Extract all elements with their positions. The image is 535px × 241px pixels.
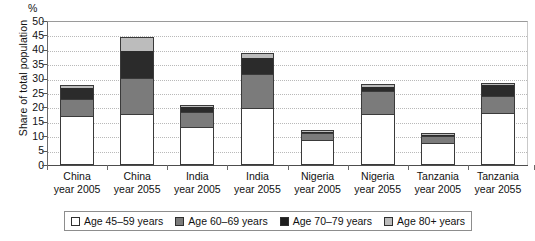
bar-group (408, 21, 468, 165)
bar-series-container (47, 21, 528, 165)
x-axis-label: Indiayear 2005 (167, 170, 227, 195)
x-axis-label: Indiayear 2055 (227, 170, 287, 195)
chart-legend: Age 45–59 yearsAge 60–69 yearsAge 70–79 … (64, 211, 472, 231)
bar-segment (362, 92, 394, 115)
x-axis-label-country: Nigeria (348, 170, 408, 183)
legend-item[interactable]: Age 60–69 years (175, 215, 267, 227)
stacked-bar[interactable] (120, 37, 154, 165)
legend-item[interactable]: Age 45–59 years (71, 215, 163, 227)
x-axis-label-year: year 2005 (408, 183, 468, 196)
legend-label: Age 80+ years (397, 215, 465, 227)
stacked-bar[interactable] (421, 133, 455, 165)
x-axis-tick (167, 165, 227, 170)
x-axis-tick (408, 165, 468, 170)
bar-segment (181, 128, 213, 165)
x-axis-label-year: year 2005 (167, 183, 227, 196)
bar-segment (302, 134, 334, 141)
legend-item[interactable]: Age 70–79 years (280, 215, 372, 227)
bar-segment (482, 85, 514, 96)
x-axis-labels: Chinayear 2005Chinayear 2055Indiayear 20… (47, 170, 528, 195)
x-axis-tick (468, 165, 528, 170)
x-axis-tick (348, 165, 408, 170)
bar-segment (482, 114, 514, 165)
white-swatch (71, 217, 80, 226)
x-axis-label-country: Nigeria (288, 170, 348, 183)
y-axis-tick-label: 45 (18, 30, 44, 40)
x-axis-label: Chinayear 2055 (107, 170, 167, 195)
bar-segment (242, 58, 274, 75)
bar-segment (242, 75, 274, 109)
y-axis-tick-label: 15 (18, 116, 44, 126)
bar-group (227, 21, 287, 165)
x-axis-label: Nigeriayear 2005 (288, 170, 348, 195)
x-axis-tick (288, 165, 348, 170)
bar-segment (302, 141, 334, 165)
y-axis-tick-label: 0 (18, 160, 44, 170)
y-axis-tick-label: 50 (18, 16, 44, 26)
y-axis-tick-label: 30 (18, 73, 44, 83)
legend-label: Age 60–69 years (188, 215, 267, 227)
legend-item[interactable]: Age 80+ years (384, 215, 465, 227)
y-axis-tick-label: 40 (18, 44, 44, 54)
x-axis-label: Tanzaniayear 2005 (408, 170, 468, 195)
x-axis-label-country: China (47, 170, 107, 183)
bar-group (107, 21, 167, 165)
y-axis-tick-label: 10 (18, 131, 44, 141)
y-axis-tick-label: 20 (18, 102, 44, 112)
stacked-bar[interactable] (180, 105, 214, 165)
x-axis-label-country: India (167, 170, 227, 183)
legend-label: Age 70–79 years (293, 215, 372, 227)
x-axis-label-year: year 2055 (468, 183, 528, 196)
bar-segment (362, 115, 394, 165)
bar-segment (61, 88, 93, 99)
x-axis-label-year: year 2055 (227, 183, 287, 196)
chart-figure: % Share of total population 051015202530… (0, 0, 535, 241)
bar-segment (422, 144, 454, 165)
bar-segment (61, 100, 93, 117)
x-axis-label: Tanzaniayear 2055 (468, 170, 528, 195)
bar-group (348, 21, 408, 165)
x-axis-label-country: China (107, 170, 167, 183)
x-axis-ticks (47, 165, 528, 170)
stacked-bar[interactable] (60, 85, 94, 165)
x-axis-label-year: year 2005 (47, 183, 107, 196)
x-axis-tick (107, 165, 167, 170)
x-axis-tick (47, 165, 107, 170)
y-axis-tick-label: 5 (18, 145, 44, 155)
bar-segment (121, 38, 153, 51)
bar-segment (422, 137, 454, 144)
x-axis-label: Chinayear 2005 (47, 170, 107, 195)
bar-segment (121, 115, 153, 165)
legend-label: Age 45–59 years (84, 215, 163, 227)
y-axis-tick-label: 25 (18, 88, 44, 98)
x-axis-label-country: Tanzania (408, 170, 468, 183)
stacked-bar[interactable] (361, 84, 395, 165)
bar-group (167, 21, 227, 165)
stacked-bar[interactable] (481, 83, 515, 165)
y-axis-tick-label: 35 (18, 59, 44, 69)
lightgray-swatch (384, 217, 393, 226)
x-axis-label-country: Tanzania (468, 170, 528, 183)
bar-segment (121, 51, 153, 80)
black-swatch (280, 217, 289, 226)
bar-group (47, 21, 107, 165)
x-axis-label-year: year 2055 (107, 183, 167, 196)
stacked-bar[interactable] (241, 53, 275, 165)
bar-segment (242, 109, 274, 165)
y-axis-unit-label: % (28, 2, 37, 14)
bar-group (468, 21, 528, 165)
bar-segment (121, 79, 153, 115)
x-axis-label: Nigeriayear 2055 (348, 170, 408, 195)
bar-segment (482, 97, 514, 114)
bar-segment (61, 117, 93, 165)
bar-segment (181, 113, 213, 129)
gray-swatch (175, 217, 184, 226)
x-axis-label-country: India (227, 170, 287, 183)
x-axis-tick (227, 165, 287, 170)
x-axis-label-year: year 2005 (288, 183, 348, 196)
stacked-bar[interactable] (301, 130, 335, 165)
bar-group (288, 21, 348, 165)
x-axis-label-year: year 2055 (348, 183, 408, 196)
